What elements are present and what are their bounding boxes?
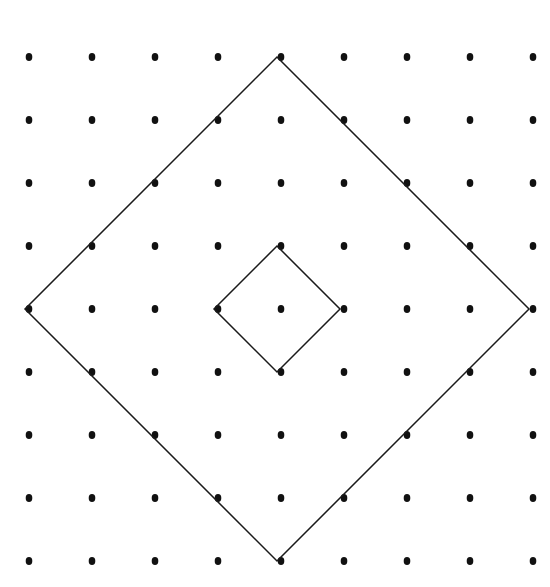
- lattice-point: [404, 305, 411, 313]
- lattice-point: [467, 179, 474, 187]
- lattice-point: [530, 242, 537, 250]
- lattice-point: [530, 305, 537, 313]
- lattice-point: [530, 368, 537, 376]
- lattice-point: [26, 557, 33, 565]
- lattice-point: [341, 179, 348, 187]
- lattice-point: [341, 242, 348, 250]
- lattice-point: [26, 431, 33, 439]
- lattice-point: [467, 116, 474, 124]
- lattice-point: [26, 494, 33, 502]
- lattice-point: [278, 179, 285, 187]
- lattice-point: [26, 179, 33, 187]
- lattice-point: [530, 557, 537, 565]
- lattice-point: [215, 179, 222, 187]
- lattice-point: [215, 368, 222, 376]
- lattice-point: [89, 557, 96, 565]
- lattice-point: [530, 116, 537, 124]
- lattice-point: [215, 242, 222, 250]
- lattice-point: [152, 557, 159, 565]
- lattice-point: [152, 242, 159, 250]
- lattice-point: [152, 305, 159, 313]
- lattice-point: [215, 53, 222, 61]
- lattice-point: [530, 431, 537, 439]
- lattice-point: [26, 116, 33, 124]
- lattice-point: [152, 368, 159, 376]
- lattice-point: [152, 53, 159, 61]
- lattice-point: [467, 53, 474, 61]
- lattice-point: [404, 557, 411, 565]
- lattice-point: [404, 494, 411, 502]
- lattice-point: [215, 431, 222, 439]
- lattice-diagram: [0, 0, 550, 587]
- lattice-point: [89, 494, 96, 502]
- lattice-point: [467, 494, 474, 502]
- lattice-point: [89, 431, 96, 439]
- lattice-point: [26, 53, 33, 61]
- lattice-point: [152, 494, 159, 502]
- lattice-point: [341, 53, 348, 61]
- lattice-point: [89, 179, 96, 187]
- lattice-point: [530, 179, 537, 187]
- lattice-point: [341, 431, 348, 439]
- lattice-point: [278, 431, 285, 439]
- lattice-point: [89, 116, 96, 124]
- lattice-point: [341, 368, 348, 376]
- lattice-point: [89, 305, 96, 313]
- lattice-point: [467, 557, 474, 565]
- lattice-point: [530, 53, 537, 61]
- lattice-point: [530, 494, 537, 502]
- figure-panel: (a): [0, 0, 550, 587]
- lattice-point: [467, 305, 474, 313]
- lattice-point: [152, 116, 159, 124]
- lattice-point: [215, 557, 222, 565]
- lattice-point: [89, 53, 96, 61]
- lattice-point: [26, 242, 33, 250]
- lattice-point: [404, 53, 411, 61]
- lattice-point: [404, 242, 411, 250]
- lattice-point: [26, 368, 33, 376]
- lattice-point: [404, 116, 411, 124]
- lattice-point: [467, 431, 474, 439]
- lattice-point: [341, 557, 348, 565]
- lattice-point: [278, 116, 285, 124]
- lattice-point: [278, 305, 285, 313]
- lattice-point: [404, 368, 411, 376]
- lattice-point: [341, 305, 348, 313]
- lattice-point: [278, 494, 285, 502]
